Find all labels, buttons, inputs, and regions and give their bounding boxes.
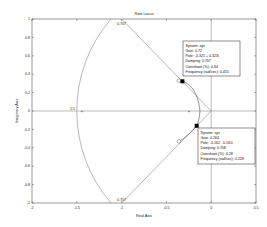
- svg-text:-0.5: -0.5: [163, 206, 169, 210]
- datatip-lower[interactable]: System: sys Gain: 0.264 Pole: -0.162 - 0…: [198, 128, 255, 164]
- svg-text:Overshoot (%): 4.28: Overshoot (%): 4.28: [201, 152, 233, 156]
- svg-text:-0.6: -0.6: [24, 164, 30, 168]
- svg-text:Damping: 0.707: Damping: 0.707: [186, 59, 211, 63]
- svg-text:Damping: 0.708: Damping: 0.708: [201, 146, 226, 150]
- svg-text:System: sys: System: sys: [201, 131, 221, 135]
- svg-text:0.2: 0.2: [25, 91, 30, 95]
- svg-text:Overshoot (%): 4.34: Overshoot (%): 4.34: [186, 65, 218, 69]
- svg-text:0: 0: [210, 206, 212, 210]
- svg-text:Frequency (rad/sec): 0.455: Frequency (rad/sec): 0.455: [186, 70, 229, 74]
- chart-title: Root Locus: [134, 12, 153, 16]
- svg-text:-0.8: -0.8: [24, 183, 30, 187]
- zero-marker-upper: [177, 79, 181, 83]
- y-axis-tick-labels: 1 0.8 0.6 0.4 0.2 0 -0.2 -0.4 -0.6 -0.8 …: [24, 17, 30, 205]
- svg-text:0.5: 0.5: [254, 206, 259, 210]
- damping-label-top: 0.707: [117, 22, 126, 26]
- svg-text:0.8: 0.8: [25, 36, 30, 40]
- datatip-upper[interactable]: System: sys Gain: 0.72 Pole: -0.321 + 0.…: [183, 41, 240, 76]
- svg-text:-0.4: -0.4: [24, 146, 30, 150]
- svg-text:-2: -2: [30, 206, 33, 210]
- svg-text:-1.5: -1.5: [74, 206, 80, 210]
- frequency-arc-label: 1.5: [70, 107, 75, 111]
- svg-text:0.6: 0.6: [25, 54, 30, 58]
- svg-text:Gain: 0.72: Gain: 0.72: [186, 49, 203, 53]
- x-axis-title: Real Axis: [136, 214, 152, 218]
- svg-text:0.4: 0.4: [25, 72, 30, 76]
- svg-text:Frequency (rad/sec): 0.228: Frequency (rad/sec): 0.228: [201, 157, 244, 161]
- damping-label-bottom: 0.707: [117, 198, 126, 202]
- svg-text:0: 0: [28, 109, 30, 113]
- svg-text:Pole: -0.162 - 0.161i: Pole: -0.162 - 0.161i: [201, 141, 234, 145]
- svg-text:Gain: 0.264: Gain: 0.264: [201, 136, 220, 140]
- datatip-marker-lower[interactable]: [195, 124, 199, 128]
- y-axis-title: Imaginary Axis: [15, 99, 19, 124]
- svg-text:-0.2: -0.2: [24, 128, 30, 132]
- svg-text:Pole: -0.321 + 0.323i: Pole: -0.321 + 0.323i: [186, 54, 219, 58]
- zero-marker-lower: [177, 140, 181, 144]
- x-axis-tick-labels: -2 -1.5 -1 -0.5 0 0.5: [30, 206, 258, 210]
- axis-marker: «: [188, 110, 190, 114]
- svg-text:System: sys: System: sys: [186, 44, 206, 48]
- svg-text:-1: -1: [27, 201, 30, 205]
- root-locus-chart: Root Locus Real Axis Imaginary Axis -2 -…: [0, 0, 267, 227]
- arc-marker: «: [81, 110, 83, 114]
- svg-text:-1: -1: [120, 206, 123, 210]
- svg-text:1: 1: [28, 17, 30, 21]
- datatip-marker-upper[interactable]: [180, 79, 184, 83]
